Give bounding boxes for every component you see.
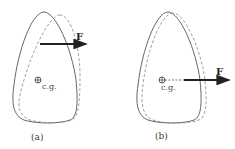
panel-b: F c.g. (b): [137, 12, 229, 141]
body-outline-displaced: [142, 13, 206, 123]
diagram-canvas: F c.g. (a) F c.g. (b): [0, 0, 235, 149]
force-label: F: [216, 66, 223, 77]
panel-caption: (a): [31, 132, 43, 142]
cg-label: c.g.: [161, 83, 176, 92]
cg-label: c.g.: [42, 82, 57, 91]
panel-a: F c.g. (a): [13, 12, 86, 142]
body-outline-original: [137, 12, 201, 123]
panel-caption: (b): [155, 131, 168, 141]
force-label: F: [76, 31, 83, 42]
cg-marker-icon: [35, 77, 41, 83]
body-outline-original: [13, 12, 77, 123]
